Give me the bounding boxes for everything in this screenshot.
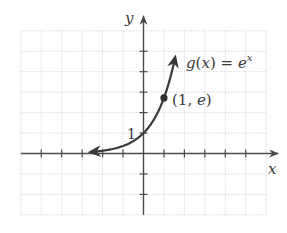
y-tick-label-1: 1: [127, 126, 136, 142]
x-axis-label: x: [268, 160, 277, 178]
function-label: g(x) = ex: [186, 52, 253, 72]
axes: [21, 16, 278, 215]
exponential-graph: y x 1 g(x) = ex (1, e): [0, 0, 287, 233]
point-label: (1, e): [172, 91, 212, 109]
point-1-e: [160, 94, 167, 101]
y-axis-label: y: [124, 9, 134, 27]
